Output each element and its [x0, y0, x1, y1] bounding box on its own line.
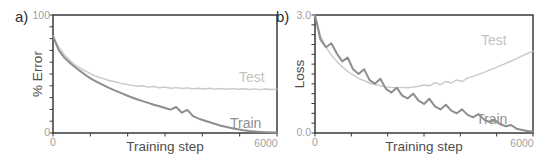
- panel-b-test-series-label: Test: [481, 32, 507, 48]
- panel-b-xtick-max: 6000: [504, 137, 540, 149]
- panel-b-ytick-min: 0.0: [287, 126, 311, 138]
- panel-a-x-axis-title: Training step: [95, 139, 235, 154]
- panel-a-xtick-max: 6000: [248, 137, 284, 149]
- panel-a-ytick-max: 100: [26, 9, 50, 21]
- panel-a-ytick-min: 0: [26, 126, 50, 138]
- panel-b-x-axis-title: Training step: [354, 139, 494, 154]
- panel-a-xtick-min: 0: [50, 136, 56, 148]
- panel-a-y-axis-title: % Error: [30, 51, 45, 97]
- panel-b-ytick-max: 3.0: [287, 9, 311, 21]
- panel-b-train-series-label: Train: [476, 111, 507, 127]
- panel-b-y-axis-title: Loss: [292, 60, 307, 89]
- panel-a-test-series-label: Test: [239, 69, 265, 85]
- panel-b-xtick-min: 0: [312, 136, 318, 148]
- figure-training-curves: { "panel_labels": { "a": "a)", "b": "b)"…: [0, 0, 545, 162]
- panel-a-train-series-label: Train: [230, 115, 261, 131]
